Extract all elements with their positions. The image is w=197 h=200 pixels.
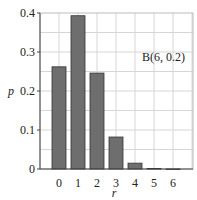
axes: 012345600.10.20.30.4	[20, 6, 193, 190]
bar-r-2	[90, 73, 104, 169]
x-tick-label: 6	[170, 176, 176, 190]
x-tick-label: 0	[56, 176, 62, 190]
y-tick-label: 0	[29, 162, 35, 176]
y-tick-label: 0.2	[20, 84, 35, 98]
y-axis-label: p	[7, 84, 14, 98]
bar-r-3	[109, 137, 123, 169]
binomial-bar-chart: 012345600.10.20.30.4 B(6, 0.2) p r	[0, 0, 197, 200]
y-tick-label: 0.4	[20, 6, 35, 20]
y-tick-label: 0.1	[20, 123, 35, 137]
bar-r-1	[71, 16, 85, 169]
y-tick-label: 0.3	[20, 45, 35, 59]
x-tick-label: 1	[75, 176, 81, 190]
x-tick-label: 2	[94, 176, 100, 190]
distribution-annotation: B(6, 0.2)	[142, 50, 185, 64]
bar-r-4	[128, 163, 142, 169]
bar-r-0	[52, 67, 66, 169]
x-axis-label: r	[112, 186, 117, 200]
x-tick-label: 4	[132, 176, 138, 190]
x-tick-label: 5	[151, 176, 157, 190]
